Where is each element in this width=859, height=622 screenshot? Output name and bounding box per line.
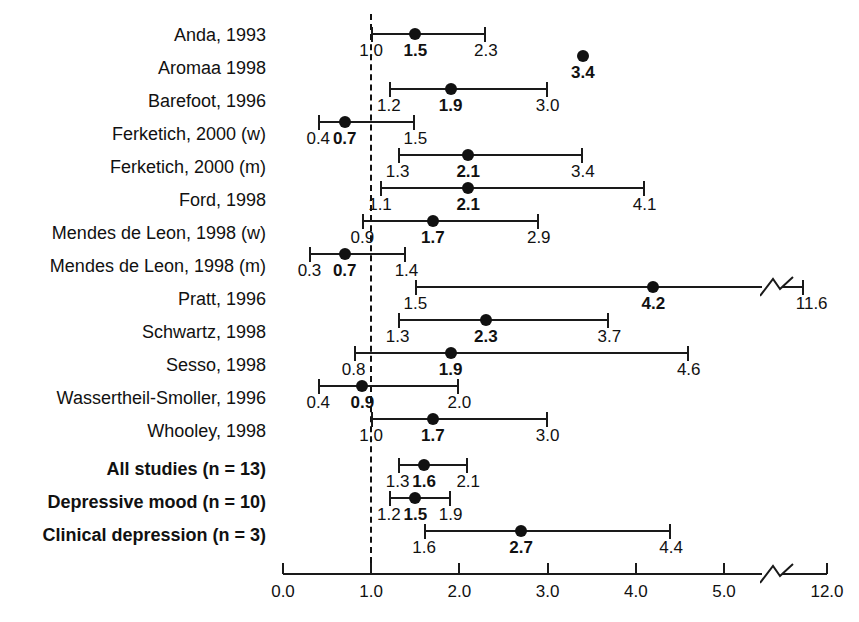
- ci-line: [398, 464, 469, 466]
- point-estimate-marker: [462, 149, 474, 161]
- study-row-label: Mendes de Leon, 1998 (m): [50, 257, 266, 275]
- summary-row-label: Depressive mood (n = 10): [47, 493, 266, 511]
- ci-cap-upper: [413, 115, 415, 130]
- ci-line: [362, 220, 538, 222]
- study-row-label: Ferketich, 2000 (w): [112, 125, 266, 143]
- point-estimate-marker: [409, 492, 421, 504]
- ci-upper-label: 4.6: [677, 361, 701, 378]
- ci-cap-upper: [687, 346, 689, 361]
- point-estimate-marker: [577, 50, 589, 62]
- ci-upper-label: 3.7: [598, 328, 622, 345]
- ci-line: [309, 253, 406, 255]
- ci-upper-label: 1.4: [395, 262, 419, 279]
- summary-row-label: All studies (n = 13): [106, 460, 266, 478]
- study-row-label: Aromaa 1998: [158, 59, 266, 77]
- point-estimate-label: 2.1: [456, 163, 480, 180]
- point-estimate-label: 0.9: [351, 394, 375, 411]
- ci-upper-label: 3.4: [571, 163, 595, 180]
- ci-cap-upper: [466, 458, 468, 473]
- point-estimate-marker: [427, 215, 439, 227]
- ci-line: [415, 286, 762, 288]
- x-axis-tick: [370, 563, 372, 574]
- ci-lower-label: 1.3: [386, 328, 410, 345]
- ci-line: [782, 286, 804, 288]
- ci-cap-upper: [449, 491, 451, 506]
- ci-lower-label: 1.5: [403, 295, 427, 312]
- ci-lower-label: 0.9: [351, 229, 375, 246]
- x-axis-tick: [282, 563, 284, 574]
- forest-plot: Anda, 19931.01.52.3Aromaa 19983.4Barefoo…: [0, 0, 859, 622]
- point-estimate-marker: [356, 380, 368, 392]
- ci-lower-label: 1.3: [386, 163, 410, 180]
- ci-lower-label: 0.4: [306, 394, 330, 411]
- point-estimate-marker: [418, 459, 430, 471]
- ci-lower-label: 0.3: [298, 262, 322, 279]
- ci-line: [354, 352, 689, 354]
- point-estimate-label: 4.2: [642, 295, 666, 312]
- point-estimate-label: 1.5: [403, 42, 427, 59]
- ci-cap-upper: [537, 214, 539, 229]
- study-row-label: Schwartz, 1998: [142, 323, 266, 341]
- ci-upper-label: 11.6: [796, 295, 828, 312]
- ci-line: [398, 154, 583, 156]
- ci-upper-label: 4.4: [659, 539, 683, 556]
- ci-cap-lower: [415, 280, 417, 295]
- x-axis-tick: [723, 563, 725, 574]
- x-axis-tick-label: 2.0: [448, 583, 472, 600]
- study-row-label: Wassertheil-Smoller, 1996: [57, 389, 266, 407]
- x-axis-tick-label: 4.0: [624, 583, 648, 600]
- ci-cap-lower: [398, 458, 400, 473]
- ci-cap-upper: [484, 27, 486, 42]
- ci-upper-label: 2.1: [456, 473, 480, 490]
- point-estimate-marker: [339, 248, 351, 260]
- point-estimate-marker: [515, 525, 527, 537]
- ci-cap-lower: [318, 115, 320, 130]
- ci-cap-upper: [457, 379, 459, 394]
- ci-lower-label: 0.8: [342, 361, 366, 378]
- ci-upper-label: 1.9: [439, 506, 463, 523]
- point-estimate-label: 3.4: [571, 64, 595, 81]
- x-axis-tick-label: 3.0: [536, 583, 560, 600]
- ci-cap-upper: [581, 148, 583, 163]
- point-estimate-label: 1.7: [421, 229, 445, 246]
- point-estimate-label: 1.5: [403, 506, 427, 523]
- ci-lower-label: 1.2: [377, 97, 401, 114]
- point-estimate-marker: [409, 28, 421, 40]
- study-row-label: Mendes de Leon, 1998 (w): [52, 224, 266, 242]
- study-row-label: Whooley, 1998: [147, 422, 266, 440]
- study-row-label: Pratt, 1996: [178, 290, 266, 308]
- ci-cap-upper: [643, 181, 645, 196]
- point-estimate-label: 1.6: [412, 473, 436, 490]
- ci-cap-lower: [380, 181, 382, 196]
- point-estimate-marker: [445, 347, 457, 359]
- study-row-label: Ford, 1998: [179, 191, 266, 209]
- ci-cap-lower: [309, 247, 311, 262]
- ci-line: [398, 319, 610, 321]
- ci-line: [380, 187, 645, 189]
- ci-lower-label: 1.1: [368, 196, 392, 213]
- ci-cap-upper: [669, 524, 671, 539]
- ci-cap-lower: [389, 491, 391, 506]
- ci-upper-label: 2.3: [474, 42, 498, 59]
- x-axis-tick-label: 5.0: [712, 583, 736, 600]
- ci-cap-lower: [371, 412, 373, 427]
- ci-line: [389, 88, 548, 90]
- point-estimate-label: 1.7: [421, 427, 445, 444]
- point-estimate-marker: [480, 314, 492, 326]
- ci-upper-label: 3.0: [536, 427, 560, 444]
- point-estimate-marker: [462, 182, 474, 194]
- ci-upper-label: 4.1: [633, 196, 657, 213]
- point-estimate-label: 0.7: [333, 262, 357, 279]
- ci-upper-label: 3.0: [536, 97, 560, 114]
- x-axis-line: [782, 573, 827, 575]
- point-estimate-label: 0.7: [333, 130, 357, 147]
- ci-cap-lower: [398, 313, 400, 328]
- point-estimate-label: 2.1: [456, 196, 480, 213]
- ci-cap-upper: [546, 82, 548, 97]
- ci-upper-label: 1.5: [403, 130, 427, 147]
- point-estimate-marker: [647, 281, 659, 293]
- x-axis-tick: [635, 563, 637, 574]
- ci-lower-label: 1.6: [412, 539, 436, 556]
- study-row-label: Sesso, 1998: [166, 356, 266, 374]
- x-axis-line: [283, 573, 762, 575]
